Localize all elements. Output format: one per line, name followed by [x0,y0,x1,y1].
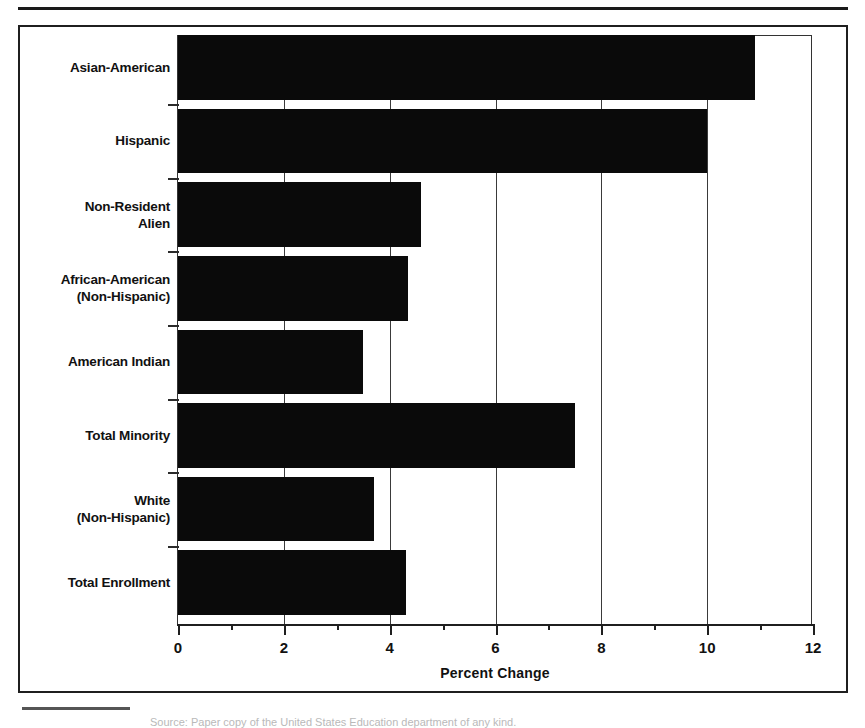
x-tick-label: 0 [158,639,198,656]
x-tick-minor [760,624,762,630]
x-tick-minor [654,624,656,630]
category-label-line: (Non-Hispanic) [20,509,170,526]
category-label: American Indian [20,353,170,370]
category-axis-labels: Asian-AmericanHispanicNon-ResidentAlienA… [20,35,170,624]
category-label-line: African-American [20,271,170,288]
category-label-line: White [20,492,170,509]
x-tick-label: 6 [476,639,516,656]
x-tick-label: 8 [581,639,621,656]
category-label: White(Non-Hispanic) [20,492,170,526]
category-label-line: Non-Resident [20,198,170,215]
category-label-line: (Non-Hispanic) [20,288,170,305]
bar [178,330,363,395]
bar-row [178,550,812,615]
bar [178,403,575,468]
bar [178,109,707,174]
x-tick-major [601,624,603,635]
bar [178,477,374,542]
footnote-rule [22,707,130,710]
category-label: Asian-American [20,59,170,76]
bar [178,256,408,321]
x-tick-minor [548,624,550,630]
category-label: African-American(Non-Hispanic) [20,271,170,305]
top-divider-rule [18,7,848,10]
bar-chart: Asian-AmericanHispanicNon-ResidentAlienA… [20,27,850,695]
x-tick-major [496,624,498,635]
bar-row [178,35,812,100]
x-tick-major [707,624,709,635]
x-tick-label: 10 [687,639,727,656]
x-tick-label: 2 [264,639,304,656]
category-label: Non-ResidentAlien [20,198,170,232]
x-tick-minor [337,624,339,630]
bar [178,550,406,615]
x-tick-minor [443,624,445,630]
bar-row [178,477,812,542]
x-tick-label: 4 [370,639,410,656]
x-tick-minor [231,624,233,630]
bar [178,182,421,247]
category-label-line: Hispanic [20,132,170,149]
figure-frame: Asian-AmericanHispanicNon-ResidentAlienA… [18,25,848,693]
category-label-line: American Indian [20,353,170,370]
x-tick-label: 12 [793,639,833,656]
bar [178,35,755,100]
x-tick-major [284,624,286,635]
category-label-line: Asian-American [20,59,170,76]
x-tick-major [390,624,392,635]
bar-series [178,35,812,624]
footnote-text: Source: Paper copy of the United States … [150,716,850,728]
category-label: Hispanic [20,132,170,149]
x-axis-title: Percent Change [177,665,813,681]
x-tick-major [178,624,180,635]
bar-row [178,403,812,468]
bar-row [178,256,812,321]
category-label-line: Total Minority [20,427,170,444]
x-tick-major [813,624,815,635]
bar-row [178,330,812,395]
bar-row [178,109,812,174]
bar-row [178,182,812,247]
category-label: Total Enrollment [20,574,170,591]
category-label-line: Alien [20,215,170,232]
category-label: Total Minority [20,427,170,444]
category-label-line: Total Enrollment [20,574,170,591]
